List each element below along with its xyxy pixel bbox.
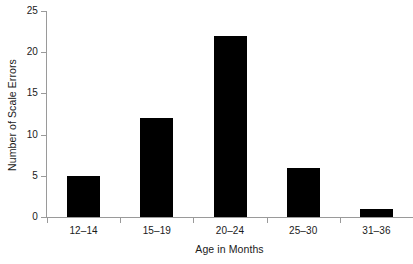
bar-chart: 0510152025 12–1415–1920–2425–3031–36 Age… [0, 0, 413, 264]
y-axis-tick [41, 93, 46, 94]
y-axis-tick [41, 217, 46, 218]
x-axis-tick-label: 20–24 [192, 225, 268, 237]
bar [287, 168, 320, 217]
plot-area [47, 11, 413, 217]
y-axis-tick [41, 135, 46, 136]
bar [360, 209, 393, 217]
y-axis-tick [41, 52, 46, 53]
bar [140, 118, 173, 217]
x-axis-tick [340, 218, 341, 223]
x-axis-tick [120, 218, 121, 223]
x-axis-tick-label: 31–36 [338, 225, 413, 237]
x-axis-title: Age in Months [46, 243, 413, 255]
y-axis-tick [41, 11, 46, 12]
x-axis-tick-label: 15–19 [119, 225, 195, 237]
y-axis-tick [41, 176, 46, 177]
bar [214, 36, 247, 217]
x-axis-tick-label: 25–30 [265, 225, 341, 237]
x-axis-tick [47, 218, 48, 223]
y-axis-title: Number of Scale Errors [6, 45, 18, 185]
y-axis-tick-label: 0 [10, 212, 38, 222]
y-axis-tick-label: 25 [10, 6, 38, 16]
x-axis-tick [267, 218, 268, 223]
x-axis-tick [193, 218, 194, 223]
x-axis-line [46, 217, 413, 218]
bar [67, 176, 100, 217]
x-axis-tick-label: 12–14 [46, 225, 122, 237]
